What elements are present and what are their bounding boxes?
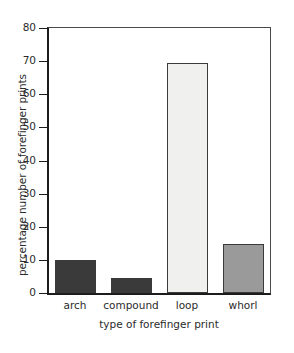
y-tick-label: 40 — [0, 155, 36, 166]
y-tick-mark — [39, 194, 47, 195]
y-tick-label: 50 — [0, 121, 36, 132]
y-tick-label: 30 — [0, 188, 36, 199]
y-tick-label: 60 — [0, 88, 36, 99]
y-tick-mark — [39, 94, 47, 95]
x-axis-title: type of forefinger print — [47, 318, 271, 330]
bar — [111, 278, 152, 293]
y-tick-label: 80 — [0, 22, 36, 33]
y-tick-label: 20 — [0, 221, 36, 232]
y-tick-mark — [39, 61, 47, 62]
y-tick-mark — [39, 227, 47, 228]
bar — [55, 260, 96, 293]
y-tick-label: 0 — [0, 287, 36, 298]
x-tick-label: whorl — [198, 299, 288, 311]
bar — [167, 63, 208, 293]
bars-container — [49, 28, 270, 293]
y-tick-mark — [39, 28, 47, 29]
y-tick-mark — [39, 260, 47, 261]
y-tick-label: 70 — [0, 55, 36, 66]
y-tick-mark — [39, 127, 47, 128]
y-tick-mark — [39, 293, 47, 294]
y-tick-mark — [39, 161, 47, 162]
y-tick-label: 10 — [0, 254, 36, 265]
bar-chart: percentage number of forefinger prints 0… — [0, 0, 294, 353]
bar — [223, 244, 264, 293]
